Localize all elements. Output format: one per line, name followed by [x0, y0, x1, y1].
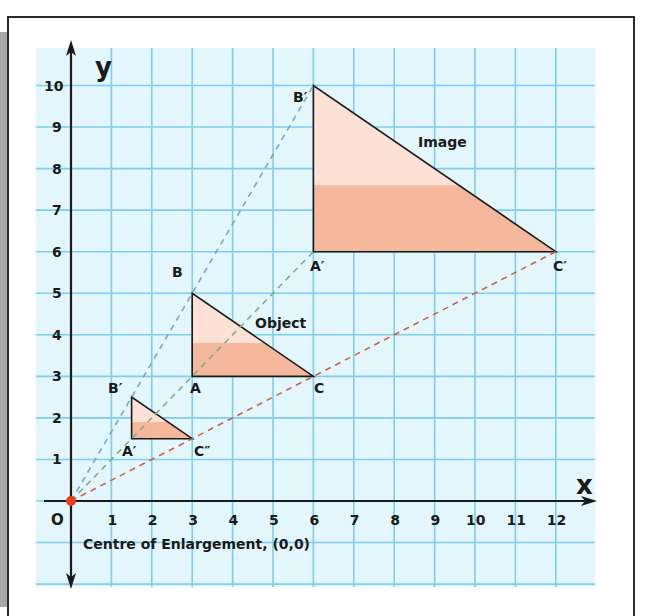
x-tick-label: 9 — [431, 512, 441, 528]
y-tick-label: 1 — [52, 451, 62, 467]
y-tick-label: 6 — [52, 244, 62, 260]
x-tick-label: 1 — [107, 512, 117, 528]
small-vertex-a-label: A′ — [122, 443, 137, 459]
y-tick-label: 5 — [52, 285, 62, 301]
vertex-b-label: B — [172, 264, 183, 280]
x-tick-label: 5 — [269, 512, 279, 528]
x-axis-label: x — [576, 470, 593, 500]
y-tick-label: 10 — [44, 78, 64, 94]
y-tick-label: 7 — [52, 202, 62, 218]
image-vertex-a-label: A′ — [310, 258, 325, 274]
x-tick-label: 2 — [148, 512, 158, 528]
vertex-a-label: A — [190, 380, 201, 396]
vertex-c-label: C — [314, 380, 324, 396]
x-tick-label: 4 — [229, 512, 239, 528]
x-tick-label: 3 — [188, 512, 198, 528]
image-label: Image — [418, 134, 467, 150]
x-tick-label: 7 — [350, 512, 360, 528]
object-label: Object — [255, 315, 307, 331]
centre-caption: Centre of Enlargement, (0,0) — [83, 536, 310, 552]
image-vertex-c-label: C′ — [553, 258, 567, 274]
x-tick-label: 6 — [309, 512, 319, 528]
image-vertex-b-label: B′ — [293, 89, 308, 105]
centre-of-enlargement-dot — [66, 496, 76, 506]
small-vertex-c-label: C″ — [194, 443, 211, 459]
origin-label: O — [51, 511, 64, 529]
y-tick-label: 9 — [52, 119, 62, 135]
y-tick-label: 3 — [52, 368, 62, 384]
y-tick-label: 2 — [52, 410, 62, 426]
x-tick-label: 10 — [466, 512, 486, 528]
y-tick-label: 4 — [52, 327, 62, 343]
small-vertex-b-label: B′ — [108, 380, 123, 396]
y-tick-label: 8 — [52, 161, 62, 177]
x-tick-label: 8 — [390, 512, 400, 528]
x-tick-label: 12 — [547, 512, 566, 528]
x-tick-label: 11 — [506, 512, 525, 528]
y-axis-label: y — [95, 52, 112, 82]
